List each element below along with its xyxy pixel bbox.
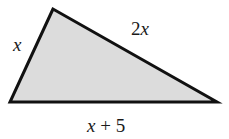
side-label-bottom: x + 5 (86, 115, 125, 136)
side-label-top-right: 2x (131, 18, 150, 39)
triangle-diagram: x 2x x + 5 (0, 0, 229, 139)
triangle (10, 9, 217, 102)
coef: 2 (131, 18, 141, 39)
side-label-left: x (12, 34, 22, 55)
var: x (140, 18, 150, 39)
rest: + 5 (95, 115, 125, 136)
